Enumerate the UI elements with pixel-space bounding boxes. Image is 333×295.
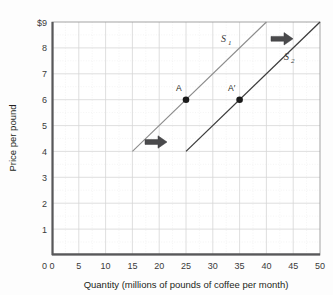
series-label-s2-text: S	[284, 51, 289, 62]
x-tick-label: 0	[49, 261, 54, 271]
x-tick-label: 25	[181, 261, 191, 271]
x-tick-label: 20	[154, 261, 164, 271]
x-axis-title: Quantity (millions of pounds of coffee p…	[84, 279, 289, 290]
x-tick-label: 10	[101, 261, 111, 271]
point-a-marker	[183, 96, 190, 103]
y-tick-label: 4	[42, 147, 47, 157]
y-tick-label: 2	[42, 199, 47, 209]
point-a-label: A	[176, 83, 182, 93]
x-tick-label: 50	[315, 261, 325, 271]
x-tick-label: 30	[208, 261, 218, 271]
chart-figure: S 1 S 2 A A′ $9 8 7 6	[0, 0, 333, 295]
y-axis-title: Price per pound	[7, 104, 18, 171]
y-tick-label: 5	[42, 121, 47, 131]
y-axis-tick-labels: $9 8 7 6 5 4 3 2 1 0	[37, 18, 47, 272]
y-tick-label: 8	[42, 43, 47, 53]
y-tick-label: 7	[42, 69, 47, 79]
series-label-s1-text: S	[221, 33, 226, 44]
series-label-s2-subscript: 2	[291, 57, 295, 65]
y-tick-label: 3	[42, 173, 47, 183]
y-tick-label: 1	[42, 225, 47, 235]
y-tick-label-zero: 0	[42, 261, 47, 271]
series-label-s1-subscript: 1	[228, 39, 232, 47]
x-tick-label: 45	[288, 261, 298, 271]
x-axis-tick-labels: 0 5 10 15 20 25 30 35 40 45 50	[49, 261, 325, 271]
supply-shift-chart: S 1 S 2 A A′ $9 8 7 6	[0, 0, 333, 295]
y-tick-label: $9	[37, 18, 47, 28]
x-tick-label: 5	[76, 261, 81, 271]
x-tick-label: 15	[127, 261, 137, 271]
point-a-prime-label: A′	[228, 83, 236, 93]
y-tick-label: 6	[42, 95, 47, 105]
x-tick-label: 35	[235, 261, 245, 271]
x-tick-label: 40	[261, 261, 271, 271]
point-a-prime-marker	[236, 96, 243, 103]
